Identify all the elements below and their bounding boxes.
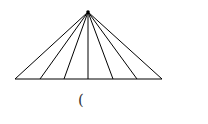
ray-line: [15, 12, 88, 79]
caption: (: [78, 91, 84, 109]
ray-line: [64, 12, 88, 79]
ray-line: [88, 12, 113, 79]
apex-point: [86, 10, 90, 14]
ray-line: [88, 12, 137, 79]
fan-triangle-diagram: [0, 0, 208, 124]
ray-line: [40, 12, 88, 79]
ray-line: [88, 12, 162, 79]
